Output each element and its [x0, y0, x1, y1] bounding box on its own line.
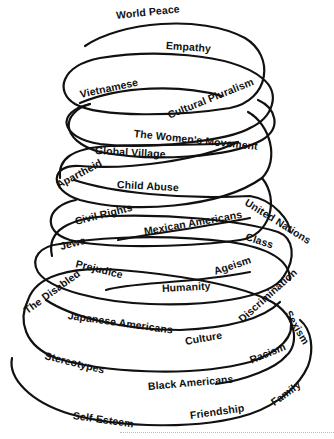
cropped-caption-line [120, 432, 334, 439]
spiral-diagram: World Peace Empathy Vietnamese Cultural … [0, 0, 334, 439]
label-humanity: Humanity [162, 280, 211, 293]
